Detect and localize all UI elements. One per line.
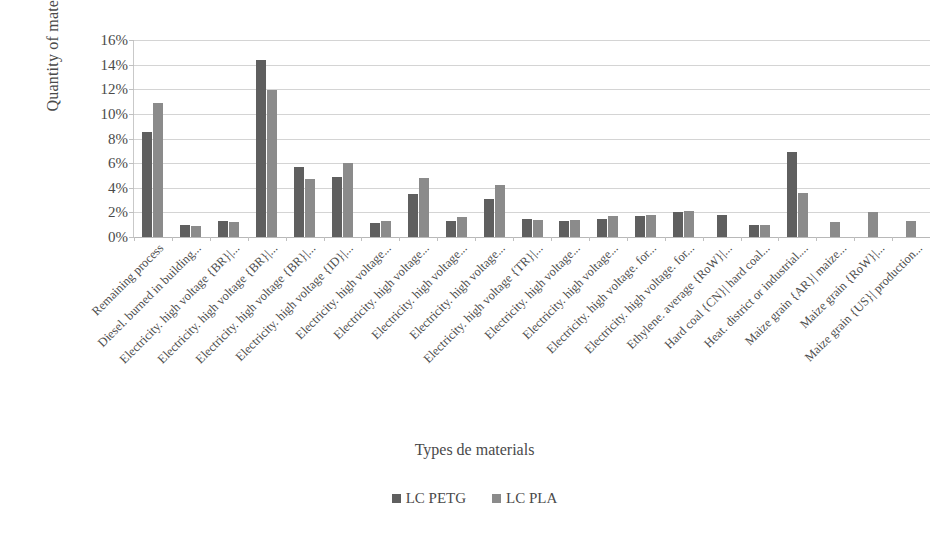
y-axis-tick-labels: 0%2%4%6%8%10%12%14%16% xyxy=(84,32,128,244)
bar xyxy=(787,152,797,237)
bar-group xyxy=(627,40,665,237)
bar xyxy=(684,211,694,237)
bar xyxy=(533,220,543,237)
bar xyxy=(294,167,304,237)
y-axis-title: Quantity of materials (%) xyxy=(44,0,62,142)
bar-group xyxy=(172,40,210,237)
bar-groups xyxy=(134,40,930,237)
bar xyxy=(760,225,770,237)
bar xyxy=(484,199,494,237)
bar xyxy=(153,103,163,237)
bar xyxy=(570,220,580,237)
bar-group xyxy=(475,40,513,237)
bar xyxy=(495,185,505,237)
bar xyxy=(673,212,683,237)
bar xyxy=(370,223,380,237)
bar xyxy=(180,225,190,237)
y-axis-tick-label: 14% xyxy=(101,56,129,73)
bar-chart: Quantity of materials (%) 0%2%4%6%8%10%1… xyxy=(0,0,949,533)
legend-swatch xyxy=(492,494,501,503)
bar-group xyxy=(854,40,892,237)
bar xyxy=(332,177,342,237)
bar-group xyxy=(437,40,475,237)
bar-group xyxy=(892,40,930,237)
bar xyxy=(343,163,353,237)
bar xyxy=(830,222,840,237)
bar-group xyxy=(324,40,362,237)
chart-legend: LC PETGLC PLA xyxy=(0,490,949,507)
legend-label: LC PETG xyxy=(406,490,466,507)
bar-group xyxy=(778,40,816,237)
bar xyxy=(191,226,201,237)
bar xyxy=(457,217,467,237)
bar xyxy=(717,215,727,237)
y-axis-tick-label: 16% xyxy=(101,32,129,49)
legend-swatch xyxy=(392,494,401,503)
bar xyxy=(798,193,808,237)
bar xyxy=(597,219,607,237)
x-axis-category-labels: Remaining processDiesel. burned in build… xyxy=(133,241,929,431)
y-axis-tick-label: 12% xyxy=(101,81,129,98)
y-axis-tick-label: 4% xyxy=(108,179,128,196)
bar xyxy=(559,221,569,237)
bar xyxy=(608,216,618,237)
bar xyxy=(522,219,532,237)
bar xyxy=(419,178,429,237)
y-axis-tick-label: 6% xyxy=(108,155,128,172)
bar-group xyxy=(589,40,627,237)
legend-item[interactable]: LC PLA xyxy=(492,490,557,507)
bar-group xyxy=(741,40,779,237)
bar-group xyxy=(816,40,854,237)
bar-group xyxy=(551,40,589,237)
bar xyxy=(635,216,645,237)
bar xyxy=(381,221,391,237)
bar-group xyxy=(134,40,172,237)
plot-area xyxy=(133,40,930,237)
bar-group xyxy=(286,40,324,237)
bar-group xyxy=(361,40,399,237)
bar-group xyxy=(703,40,741,237)
bar xyxy=(218,221,228,237)
bar-group xyxy=(248,40,286,237)
bar xyxy=(646,215,656,237)
bar xyxy=(868,212,878,237)
gridline xyxy=(134,237,930,238)
y-axis-tick-label: 10% xyxy=(101,105,129,122)
bar xyxy=(142,132,152,237)
y-axis-tick-label: 0% xyxy=(108,229,128,246)
bar-group xyxy=(665,40,703,237)
bar-group xyxy=(513,40,551,237)
bar xyxy=(305,179,315,237)
legend-item[interactable]: LC PETG xyxy=(392,490,466,507)
bar-group xyxy=(210,40,248,237)
bar-group xyxy=(399,40,437,237)
bar xyxy=(446,221,456,237)
legend-label: LC PLA xyxy=(506,490,557,507)
y-axis-tick-label: 2% xyxy=(108,204,128,221)
bar xyxy=(229,222,239,237)
bar xyxy=(749,225,759,237)
x-axis-title: Types de materials xyxy=(0,441,949,459)
y-axis-tick-label: 8% xyxy=(108,130,128,147)
bar xyxy=(906,221,916,237)
bar xyxy=(408,194,418,237)
bar xyxy=(267,90,277,237)
bar xyxy=(256,60,266,237)
